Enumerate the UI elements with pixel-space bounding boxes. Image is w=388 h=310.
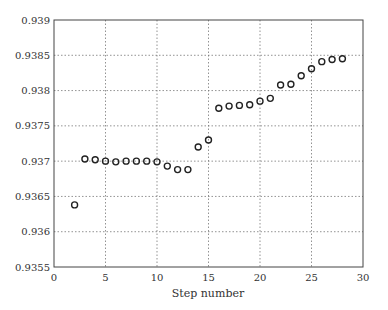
x-axis-label: Step number: [172, 287, 245, 300]
data-point: [92, 157, 98, 163]
x-tick-label: 5: [102, 272, 108, 283]
data-point: [267, 95, 273, 101]
x-tick-label: 25: [305, 272, 318, 283]
data-point: [278, 82, 284, 88]
y-tick-label: 0.9355: [15, 262, 50, 273]
data-point: [195, 144, 201, 150]
data-point: [164, 163, 170, 169]
y-tick-label: 0.939: [21, 15, 50, 26]
data-point: [247, 102, 253, 108]
y-tick-label: 0.9375: [15, 120, 50, 131]
data-point: [226, 103, 232, 109]
y-axis-ticks: 0.93550.9360.93650.9370.93750.9380.93850…: [15, 15, 50, 273]
data-point: [329, 57, 335, 63]
x-tick-label: 20: [254, 272, 267, 283]
data-point: [216, 105, 222, 111]
data-point: [319, 59, 325, 65]
data-point: [236, 102, 242, 108]
x-axis-ticks: 051015202530: [51, 272, 370, 283]
data-point: [185, 167, 191, 173]
data-point: [175, 167, 181, 173]
y-tick-label: 0.938: [21, 85, 50, 96]
scatter-chart: 051015202530 0.93550.9360.93650.9370.937…: [0, 0, 388, 310]
y-tick-label: 0.9365: [15, 191, 50, 202]
data-point: [339, 56, 345, 62]
y-tick-label: 0.937: [21, 156, 50, 167]
x-tick-label: 15: [202, 272, 215, 283]
x-tick-label: 30: [357, 272, 370, 283]
data-point: [298, 73, 304, 79]
x-tick-label: 10: [151, 272, 164, 283]
y-tick-label: 0.936: [21, 226, 50, 237]
data-point: [82, 156, 88, 162]
data-point: [288, 81, 294, 87]
x-tick-label: 0: [51, 272, 57, 283]
y-tick-label: 0.9385: [15, 50, 50, 61]
data-point: [113, 159, 119, 165]
data-point: [72, 202, 78, 208]
